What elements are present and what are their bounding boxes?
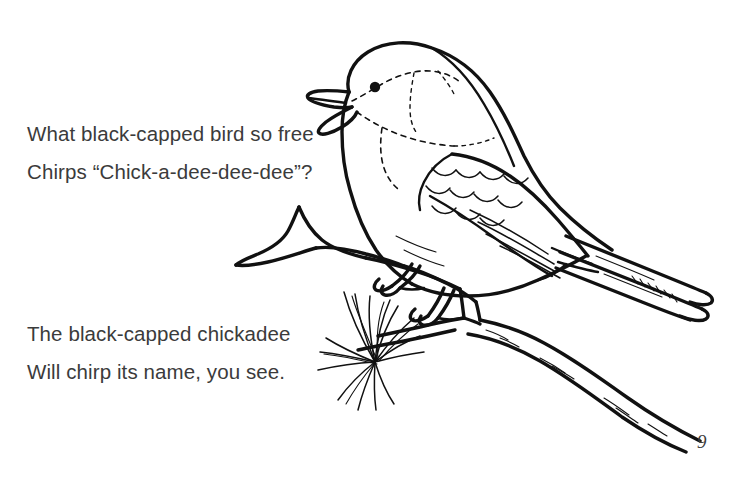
chickadee-illustration	[0, 0, 747, 488]
branch-group	[236, 207, 700, 452]
verse-two: The black-capped chickadee Will chirp it…	[27, 315, 291, 391]
page-number: 9	[697, 431, 707, 453]
bird-leg-rear	[374, 264, 424, 295]
bird-group	[307, 43, 712, 325]
bird-beak	[307, 91, 357, 135]
verse-one-line-2: Chirps “Chick-a-dee-dee-dee”?	[27, 153, 314, 191]
verse-one: What black-capped bird so free Chirps “C…	[27, 115, 314, 191]
coloring-book-page: What black-capped bird so free Chirps “C…	[0, 0, 747, 488]
bird-tail	[538, 236, 712, 320]
verse-one-line-1: What black-capped bird so free	[27, 115, 314, 153]
bird-cap-marking	[352, 71, 460, 132]
bird-back-contour	[432, 48, 514, 166]
verse-two-line-1: The black-capped chickadee	[27, 315, 291, 353]
branch-lower	[358, 289, 700, 452]
branch-upper	[236, 207, 476, 302]
pine-needle-cluster	[318, 292, 424, 410]
bird-wing	[419, 154, 598, 278]
verse-two-line-2: Will chirp its name, you see.	[27, 353, 291, 391]
bird-flank-hatch	[404, 250, 444, 266]
